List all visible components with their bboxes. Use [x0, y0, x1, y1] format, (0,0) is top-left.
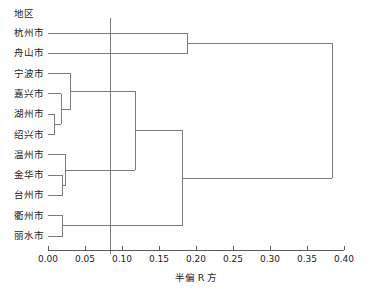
x-tick-label-5: 0.20 [186, 254, 206, 264]
x-tick-label-8: 0.35 [297, 254, 317, 264]
x-axis-title: 半偏 R 方 [175, 272, 218, 283]
leaf-column-header: 地区 [14, 9, 34, 19]
x-tick-label-7: 0.30 [260, 254, 280, 264]
dendrogram-canvas [0, 0, 380, 290]
leaf-label-5: 湖州市 [2, 109, 44, 119]
leaf-label-9: 台州市 [2, 190, 44, 200]
dendrogram-figure: 杭州市舟山市宁波市嘉兴市湖州市绍兴市温州市金华市台州市衢州市丽水市 0.000.… [0, 0, 380, 290]
x-tick-label-2: 0.05 [75, 254, 95, 264]
x-tick-label-6: 0.25 [223, 254, 243, 264]
leaf-label-4: 嘉兴市 [2, 89, 44, 99]
leaf-label-11: 丽水市 [2, 231, 44, 241]
leaf-label-7: 温州市 [2, 150, 44, 160]
leaf-label-6: 绍兴市 [2, 130, 44, 140]
x-tick-label-1: 0.00 [38, 254, 58, 264]
leaf-label-8: 金华市 [2, 170, 44, 180]
x-tick-label-3: 0.10 [112, 254, 132, 264]
x-axis [48, 246, 344, 250]
x-tick-label-9: 0.40 [334, 254, 354, 264]
dendrogram-tree-lines [48, 33, 332, 236]
x-tick-label-4: 0.15 [149, 254, 169, 264]
leaf-label-3: 宁波市 [2, 69, 44, 79]
leaf-label-2: 舟山市 [2, 48, 44, 58]
leaf-label-10: 衢州市 [2, 211, 44, 221]
leaf-label-1: 杭州市 [2, 28, 44, 38]
